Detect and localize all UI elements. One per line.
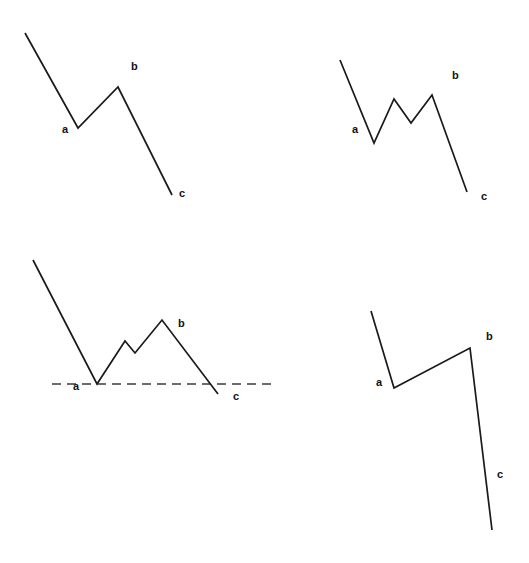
wave-line-4 bbox=[371, 311, 492, 530]
wave-line-2 bbox=[340, 60, 467, 192]
label-point-c-chart3: c bbox=[233, 391, 239, 402]
elliott-wave-figure-board: a b c a b c a b c a b c bbox=[0, 0, 529, 563]
chart-zigzag-steep-c: a b c bbox=[340, 280, 529, 563]
chart-zigzag-simple: a b c bbox=[0, 0, 265, 240]
label-point-a-chart3: a bbox=[73, 381, 79, 392]
label-point-b-chart3: b bbox=[178, 318, 185, 329]
chart-zigzag-with-baseline: a b c bbox=[0, 240, 290, 440]
label-point-c-chart1: c bbox=[179, 188, 185, 199]
chart-zigzag-with-baseline-canvas bbox=[0, 240, 290, 440]
label-point-b-chart1: b bbox=[131, 61, 138, 72]
label-point-c-chart2: c bbox=[481, 191, 487, 202]
label-point-b-chart2: b bbox=[452, 70, 459, 81]
label-point-a-chart4: a bbox=[376, 377, 382, 388]
chart-zigzag-steep-c-canvas bbox=[340, 280, 529, 563]
label-point-a-chart2: a bbox=[352, 124, 358, 135]
wave-line-3 bbox=[33, 260, 218, 394]
chart-zigzag-flat-b-canvas bbox=[265, 0, 529, 240]
label-point-a-chart1: a bbox=[62, 124, 68, 135]
wave-line-1 bbox=[25, 33, 172, 195]
label-point-b-chart4: b bbox=[486, 331, 493, 342]
chart-zigzag-flat-b: a b c bbox=[265, 0, 529, 240]
label-point-c-chart4: c bbox=[497, 469, 503, 480]
chart-zigzag-simple-canvas bbox=[0, 0, 265, 240]
